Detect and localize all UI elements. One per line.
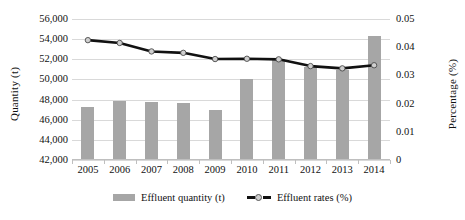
line-path <box>88 40 374 68</box>
x-axis-tick-mark <box>263 160 264 164</box>
line-series-effluent-rates <box>72 19 390 160</box>
y-axis-left-tick-label: 44,000 <box>22 135 68 145</box>
combo-chart: Quantity (t) Percentage (%) 42,00044,000… <box>0 0 465 220</box>
legend-item-effluent-rates: Effluent rates (%) <box>247 192 352 203</box>
y-axis-left-tick-label: 48,000 <box>22 95 68 105</box>
x-axis-labels: 2005200620072008200920102011201220132014 <box>72 164 390 180</box>
x-axis-tick-mark <box>231 160 232 164</box>
x-axis-tick-mark <box>295 160 296 164</box>
line-marker <box>181 50 186 55</box>
y-axis-left-tick-label: 50,000 <box>22 74 68 84</box>
y-axis-right-tick-label: 0.01 <box>396 127 442 137</box>
x-axis-tick-mark <box>390 160 391 164</box>
y-axis-right-tick-label: 0.02 <box>396 99 442 109</box>
line-path-group <box>72 19 390 160</box>
legend-label-effluent-quantity: Effluent quantity (t) <box>141 192 225 203</box>
line-marker <box>340 66 345 71</box>
line-marker <box>244 56 249 61</box>
x-axis-tick-mark <box>104 160 105 164</box>
plot-area <box>72 19 390 160</box>
y-axis-right-tick-label: 0.05 <box>396 14 442 24</box>
chart-legend: Effluent quantity (t) Effluent rates (%) <box>0 192 465 203</box>
line-marker <box>212 56 217 61</box>
line-marker <box>149 49 154 54</box>
line-marker <box>308 63 313 68</box>
line-marker <box>276 57 281 62</box>
y-axis-right-tick-label: 0.04 <box>396 42 442 52</box>
legend-label-effluent-rates: Effluent rates (%) <box>277 192 352 203</box>
y-axis-right-ticks: 00.010.020.030.040.05 <box>396 0 442 168</box>
y-axis-left-title: Quantity (t) <box>8 34 20 154</box>
y-axis-left-tick-label: 52,000 <box>22 54 68 64</box>
y-axis-right-tick-label: 0 <box>396 155 442 165</box>
line-marker <box>85 37 90 42</box>
y-axis-left-tick-label: 56,000 <box>22 14 68 24</box>
y-axis-left-tick-label: 54,000 <box>22 34 68 44</box>
y-axis-right-title: Percentage (%) <box>446 34 458 154</box>
y-axis-right-tick-label: 0.03 <box>396 70 442 80</box>
x-axis-tick-label: 2014 <box>354 164 394 175</box>
bar-swatch-icon <box>113 194 135 201</box>
x-axis-tick-mark <box>72 160 73 164</box>
y-axis-left-tick-label: 42,000 <box>22 155 68 165</box>
line-marker <box>371 63 376 68</box>
x-axis-tick-mark <box>326 160 327 164</box>
y-axis-left-ticks: 42,00044,00046,00048,00050,00052,00054,0… <box>22 0 68 168</box>
line-marker-swatch-icon <box>247 193 271 202</box>
x-axis-tick-mark <box>199 160 200 164</box>
y-axis-left-tick-label: 46,000 <box>22 115 68 125</box>
legend-item-effluent-quantity: Effluent quantity (t) <box>113 192 225 203</box>
x-axis-tick-mark <box>136 160 137 164</box>
x-axis-tick-mark <box>167 160 168 164</box>
x-axis-tick-mark <box>358 160 359 164</box>
line-marker <box>117 40 122 45</box>
